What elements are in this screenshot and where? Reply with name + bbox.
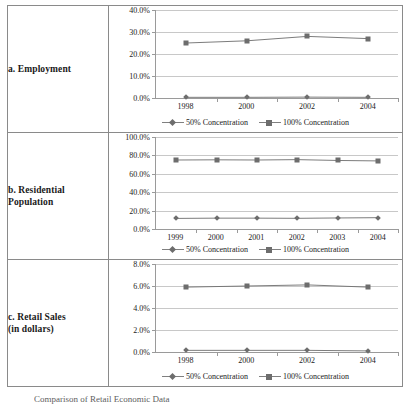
data-point-square xyxy=(365,285,370,290)
plot-frame xyxy=(155,137,398,229)
y-axis-tick-label: 60.0% xyxy=(129,169,150,178)
line-chart-residential-population: 0.0%20.0%40.0%60.0%80.0%100.0%1999200020… xyxy=(109,133,402,259)
legend-item[interactable]: 50% Concentration xyxy=(162,372,248,381)
series-line xyxy=(186,36,368,43)
figure-table-body: a. Employment 0.0%10.0%20.0%30.0%40.0%19… xyxy=(8,6,403,387)
x-axis-tick xyxy=(398,229,399,233)
x-axis-tick-label: 2000 xyxy=(238,102,254,111)
series-line xyxy=(176,218,378,219)
legend-label: 100% Concentration xyxy=(283,245,349,254)
data-point-square xyxy=(375,158,380,163)
figure-page: a. Employment 0.0%10.0%20.0%30.0%40.0%19… xyxy=(0,0,409,406)
x-axis-tick-label: 2002 xyxy=(299,102,315,111)
plot-area: 0.0%2.0%4.0%6.0%8.0% xyxy=(109,264,398,352)
table-row: a. Employment 0.0%10.0%20.0%30.0%40.0%19… xyxy=(8,6,403,133)
plot-area: 0.0%10.0%20.0%30.0%40.0% xyxy=(109,10,398,98)
data-point-diamond xyxy=(244,94,250,100)
x-axis-tick xyxy=(398,352,399,356)
y-axis: 0.0%2.0%4.0%6.0%8.0% xyxy=(109,264,153,352)
y-axis-tick-label: 20.0% xyxy=(129,206,150,215)
legend-label: 100% Concentration xyxy=(283,372,349,381)
line-chart-employment: 0.0%10.0%20.0%30.0%40.0%1998200020022004… xyxy=(109,6,402,132)
chart-legend: 50% Concentration100% Concentration xyxy=(109,372,402,381)
chart-legend: 50% Concentration100% Concentration xyxy=(109,245,402,254)
x-axis: 1998200020022004 xyxy=(155,102,398,114)
series-layer xyxy=(156,137,398,229)
x-axis-tick-label: 2002 xyxy=(299,356,315,365)
x-axis-tick-label: 1998 xyxy=(177,102,193,111)
x-axis: 1998200020022004 xyxy=(155,356,398,368)
legend-item[interactable]: 100% Concentration xyxy=(259,118,349,127)
y-axis-tick xyxy=(152,229,156,230)
legend-item[interactable]: 50% Concentration xyxy=(162,245,248,254)
y-axis-tick-label: 80.0% xyxy=(129,151,150,160)
legend-label: 50% Concentration xyxy=(186,245,248,254)
y-axis-tick-label: 20.0% xyxy=(129,50,150,59)
data-point-square xyxy=(174,158,179,163)
plot-area: 0.0%20.0%40.0%60.0%80.0%100.0% xyxy=(109,137,398,229)
data-point-square xyxy=(244,38,249,43)
x-axis-tick-label: 2004 xyxy=(360,356,376,365)
row-label-text: b. Residential Population xyxy=(8,185,65,207)
figure-caption: Comparison of Retail Economic Data xyxy=(34,394,374,405)
y-axis-tick-label: 2.0% xyxy=(133,326,150,335)
chart-cell-employment: 0.0%10.0%20.0%30.0%40.0%1998200020022004… xyxy=(109,6,403,133)
figure-table: a. Employment 0.0%10.0%20.0%30.0%40.0%19… xyxy=(7,5,403,387)
table-row: b. Residential Population 0.0%20.0%40.0%… xyxy=(8,133,403,260)
y-axis: 0.0%20.0%40.0%60.0%80.0%100.0% xyxy=(109,137,153,229)
data-point-square xyxy=(254,158,259,163)
x-axis-tick-label: 1999 xyxy=(167,233,183,242)
data-point-square xyxy=(335,158,340,163)
y-axis-tick-label: 10.0% xyxy=(129,72,150,81)
y-axis-tick xyxy=(152,352,156,353)
y-axis-tick-label: 100.0% xyxy=(125,133,150,142)
x-axis-tick-label: 2000 xyxy=(208,233,224,242)
data-point-diamond xyxy=(365,94,371,100)
y-axis-tick-label: 40.0% xyxy=(129,6,150,15)
row-label-retail-sales: c. Retail Sales (in dollars) xyxy=(8,260,109,387)
data-point-square xyxy=(305,34,310,39)
row-label-employment: a. Employment xyxy=(8,6,109,133)
square-marker-icon xyxy=(259,245,281,254)
legend-label: 100% Concentration xyxy=(283,118,349,127)
diamond-marker-icon xyxy=(162,372,184,381)
square-marker-icon xyxy=(259,118,281,127)
data-point-square xyxy=(214,157,219,162)
x-axis-tick-label: 2001 xyxy=(248,233,264,242)
table-row: c. Retail Sales (in dollars) 0.0%2.0%4.0… xyxy=(8,260,403,387)
line-chart-retail-sales: 0.0%2.0%4.0%6.0%8.0%199820002002200450% … xyxy=(109,260,402,386)
y-axis-tick-label: 4.0% xyxy=(133,304,150,313)
plot-frame xyxy=(155,10,398,98)
legend-item[interactable]: 100% Concentration xyxy=(259,245,349,254)
data-point-square xyxy=(184,41,189,46)
series-line xyxy=(186,350,368,351)
x-axis-tick-label: 2002 xyxy=(289,233,305,242)
legend-item[interactable]: 100% Concentration xyxy=(259,372,349,381)
legend-item[interactable]: 50% Concentration xyxy=(162,118,248,127)
row-label-text: a. Employment xyxy=(8,64,71,74)
row-label-line1: c. Retail Sales xyxy=(8,312,66,322)
y-axis-tick-label: 0.0% xyxy=(133,94,150,103)
legend-label: 50% Concentration xyxy=(186,118,248,127)
x-axis-tick-label: 1998 xyxy=(177,356,193,365)
legend-label: 50% Concentration xyxy=(186,372,248,381)
chart-cell-residential-population: 0.0%20.0%40.0%60.0%80.0%100.0%1999200020… xyxy=(109,133,403,260)
y-axis-tick-label: 40.0% xyxy=(129,188,150,197)
data-point-square xyxy=(365,36,370,41)
data-point-square xyxy=(244,284,249,289)
y-axis-tick xyxy=(152,98,156,99)
y-axis: 0.0%10.0%20.0%30.0%40.0% xyxy=(109,10,153,98)
data-point-square xyxy=(184,285,189,290)
chart-legend: 50% Concentration100% Concentration xyxy=(109,118,402,127)
y-axis-tick-label: 0.0% xyxy=(133,348,150,357)
x-axis-tick-label: 2003 xyxy=(329,233,345,242)
y-axis-tick-label: 8.0% xyxy=(133,260,150,269)
row-label-residential-population: b. Residential Population xyxy=(8,133,109,260)
row-label-line2: (in dollars) xyxy=(8,324,54,334)
chart-cell-retail-sales: 0.0%2.0%4.0%6.0%8.0%199820002002200450% … xyxy=(109,260,403,387)
x-axis: 199920002001200220032004 xyxy=(155,233,398,245)
series-line xyxy=(176,160,378,161)
y-axis-tick-label: 30.0% xyxy=(129,28,150,37)
y-axis-tick-label: 0.0% xyxy=(133,225,150,234)
square-marker-icon xyxy=(259,372,281,381)
